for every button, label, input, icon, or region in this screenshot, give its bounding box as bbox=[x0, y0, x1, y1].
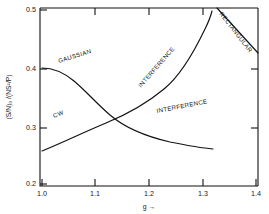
y-axis-title: (S/N)₀ /(NS²/P) bbox=[5, 74, 13, 119]
y-tick-marks bbox=[40, 10, 258, 184]
x-tick-marks bbox=[42, 8, 256, 186]
y-tick-label-0.4: 0.4 bbox=[26, 64, 36, 73]
curve-gaussian bbox=[42, 68, 213, 149]
x-tick-label-1.0: 1.0 bbox=[37, 189, 47, 198]
chart-figure: 0.5 0.4 0.3 0.2 1.0 1.1 1.2 1.3 1.4 g → … bbox=[0, 0, 269, 214]
x-tick-label-1.3: 1.3 bbox=[198, 189, 208, 198]
curve-label-gaussian: GAUSSIAN bbox=[57, 47, 92, 64]
plot-frame bbox=[40, 8, 258, 186]
curve-label-interference-lower: INTERFERENCE bbox=[156, 97, 208, 114]
x-tick-label-1.1: 1.1 bbox=[90, 189, 100, 198]
curve-cw bbox=[42, 11, 212, 151]
x-axis-title: g → bbox=[143, 203, 155, 211]
y-tick-label-0.3: 0.3 bbox=[26, 123, 36, 132]
x-tick-label-1.2: 1.2 bbox=[144, 189, 154, 198]
curve-label-interference-upper: INTERFERENCE bbox=[136, 45, 175, 89]
x-tick-label-1.4: 1.4 bbox=[251, 189, 261, 198]
chart-svg: 0.5 0.4 0.3 0.2 1.0 1.1 1.2 1.3 1.4 g → … bbox=[0, 0, 269, 214]
y-tick-label-0.2: 0.2 bbox=[26, 179, 36, 188]
y-tick-label-0.5: 0.5 bbox=[26, 5, 36, 14]
curve-label-cw: CW bbox=[52, 108, 65, 119]
axis-lines bbox=[40, 8, 258, 186]
curve-label-rectangular: RECTANGULAR bbox=[218, 10, 254, 53]
